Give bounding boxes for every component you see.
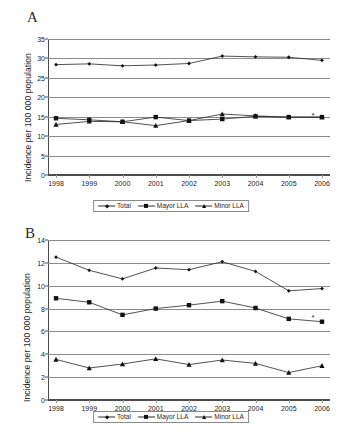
data-point (54, 116, 58, 120)
data-point (121, 64, 125, 68)
legend-marker-icon (98, 413, 115, 420)
y-tick-label: 5 (41, 152, 45, 159)
legend-label: Mayor LLA (157, 413, 188, 420)
x-tick-label: 2002 (181, 180, 197, 187)
x-tick-label: 2005 (281, 180, 297, 187)
legend-label: Total (117, 202, 131, 209)
y-tick-label: 2 (41, 374, 45, 381)
plot-area-b: 0246810121419981999200020012002200320042… (48, 240, 330, 400)
y-tick-label: 10 (37, 133, 45, 140)
x-tick-label: 1999 (81, 180, 97, 187)
x-tick-mark (156, 175, 157, 178)
y-tick-label: 14 (37, 237, 45, 244)
x-tick-label: 2000 (115, 180, 131, 187)
x-tick-mark (56, 400, 57, 403)
series-layer (48, 39, 330, 175)
data-point (120, 313, 124, 317)
x-tick-label: 2003 (214, 180, 230, 187)
data-point (287, 289, 291, 293)
data-point (320, 320, 324, 324)
x-tick-mark (289, 400, 290, 403)
series-line-mayor-lla (56, 298, 322, 321)
data-point (187, 303, 191, 307)
data-point (87, 62, 91, 66)
data-point (253, 306, 257, 310)
y-tick-label: 12 (37, 259, 45, 266)
y-tick-label: 4 (41, 351, 45, 358)
data-point (154, 266, 158, 270)
data-point (254, 270, 258, 274)
data-point (220, 260, 224, 264)
data-point (220, 54, 224, 58)
legend-item-total: Total (98, 413, 131, 420)
y-tick-label: 30 (37, 55, 45, 62)
data-point (187, 268, 191, 272)
data-point (54, 63, 58, 67)
data-point (220, 299, 224, 303)
x-tick-mark (256, 175, 257, 178)
x-tick-mark (222, 175, 223, 178)
legend-marker-icon (98, 202, 115, 209)
legend-item-mayor-lla: Mayor LLA (138, 202, 188, 209)
legend-item-mayor-lla: Mayor LLA (138, 413, 188, 420)
annotation-asterisk: * (311, 110, 314, 119)
data-point (154, 115, 158, 119)
y-tick-label: 15 (37, 113, 45, 120)
x-tick-label: 2005 (281, 405, 297, 412)
x-tick-mark (322, 175, 323, 178)
data-point (320, 287, 324, 291)
x-tick-mark (123, 175, 124, 178)
data-point (53, 357, 58, 362)
data-point (121, 277, 125, 281)
x-tick-label: 2006 (314, 405, 330, 412)
x-tick-label: 2004 (248, 180, 264, 187)
y-tick-label: 35 (37, 36, 45, 43)
data-point (187, 62, 191, 66)
x-tick-mark (89, 175, 90, 178)
legend-a: TotalMayor LLAMinor LLA (93, 200, 249, 212)
legend-label: Total (117, 413, 131, 420)
x-tick-mark (156, 400, 157, 403)
x-tick-mark (56, 175, 57, 178)
x-tick-label: 2006 (314, 180, 330, 187)
data-point (220, 117, 224, 121)
x-tick-label: 1998 (48, 405, 64, 412)
annotation-asterisk: * (311, 313, 314, 322)
panel-label-b: B (25, 226, 35, 241)
legend-marker-icon (195, 202, 212, 209)
data-point (153, 356, 158, 361)
plot-area-a: 0510152025303519981999200020012002200320… (48, 39, 330, 175)
y-tick-label: 20 (37, 94, 45, 101)
series-line-total (56, 257, 322, 291)
y-tick-label: 25 (37, 74, 45, 81)
x-tick-mark (123, 400, 124, 403)
y-tick-label: 10 (37, 282, 45, 289)
series-layer (48, 240, 330, 400)
data-point (287, 55, 291, 59)
y-tick-label: 0 (41, 172, 45, 179)
x-tick-mark (256, 400, 257, 403)
data-point (320, 58, 324, 62)
data-point (287, 317, 291, 321)
legend-label: Minor LLA (214, 202, 244, 209)
y-tick-label: 8 (41, 305, 45, 312)
chart-panel-b: B Incidence per 100 000 population 02468… (0, 222, 342, 445)
data-point (319, 363, 324, 368)
y-axis-label-a: Incidence per 100 000 population (23, 53, 33, 182)
legend-marker-icon (138, 413, 155, 420)
data-point (154, 63, 158, 67)
x-tick-mark (89, 400, 90, 403)
x-tick-mark (189, 175, 190, 178)
legend-item-minor-lla: Minor LLA (195, 413, 244, 420)
data-point (87, 300, 91, 304)
legend-item-total: Total (98, 202, 131, 209)
legend-marker-icon (195, 413, 212, 420)
y-axis-label-b: Incidence per 100 000 population (22, 273, 32, 402)
x-tick-label: 1998 (48, 180, 64, 187)
data-point (87, 268, 91, 272)
panel-label-a: A (27, 10, 38, 25)
x-tick-mark (189, 400, 190, 403)
x-tick-mark (289, 175, 290, 178)
data-point (54, 255, 58, 259)
data-point (54, 296, 58, 300)
